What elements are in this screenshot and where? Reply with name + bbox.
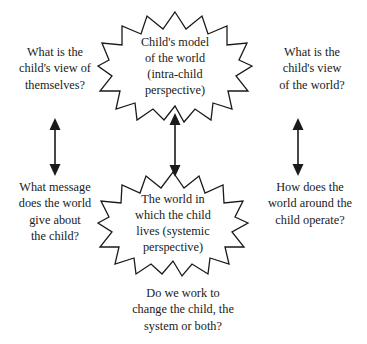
left-arrow-icon bbox=[47, 118, 63, 176]
caption-bottom-left: What message does the world give about t… bbox=[0, 179, 110, 245]
caption-line: What is the bbox=[0, 44, 110, 60]
caption-line: child operate? bbox=[253, 212, 367, 228]
caption-line: Do we work to bbox=[93, 285, 273, 301]
caption-top-right: What is the child's view of the world? bbox=[257, 44, 367, 93]
caption-line: change the child, the bbox=[93, 301, 273, 317]
caption-line: system or both? bbox=[93, 318, 273, 334]
caption-bottom-right: How does the world around the child oper… bbox=[253, 179, 367, 228]
starburst-shape-bottom bbox=[98, 170, 248, 276]
node-world-systemic: The world in which the child lives (syst… bbox=[98, 170, 248, 276]
caption-line: child's view bbox=[257, 60, 367, 76]
caption-line: themselves? bbox=[0, 77, 110, 93]
caption-line: of the world? bbox=[257, 77, 367, 93]
caption-bottom-center: Do we work to change the child, the syst… bbox=[93, 285, 273, 334]
diagram-canvas: Child's model of the world (intra-child … bbox=[0, 0, 367, 344]
caption-line: world around the bbox=[253, 195, 367, 211]
right-arrow-icon bbox=[290, 118, 306, 176]
caption-line: What message bbox=[0, 179, 110, 195]
node-child-model: Child's model of the world (intra-child … bbox=[98, 10, 252, 122]
starburst-shape-top bbox=[98, 10, 252, 122]
caption-line: child's view of bbox=[0, 60, 110, 76]
caption-top-left: What is the child's view of themselves? bbox=[0, 44, 110, 93]
caption-line: What is the bbox=[257, 44, 367, 60]
caption-line: How does the bbox=[253, 179, 367, 195]
caption-line: does the world bbox=[0, 195, 110, 211]
caption-line: give about bbox=[0, 212, 110, 228]
caption-line: the child? bbox=[0, 228, 110, 244]
center-arrow-icon bbox=[167, 113, 183, 177]
